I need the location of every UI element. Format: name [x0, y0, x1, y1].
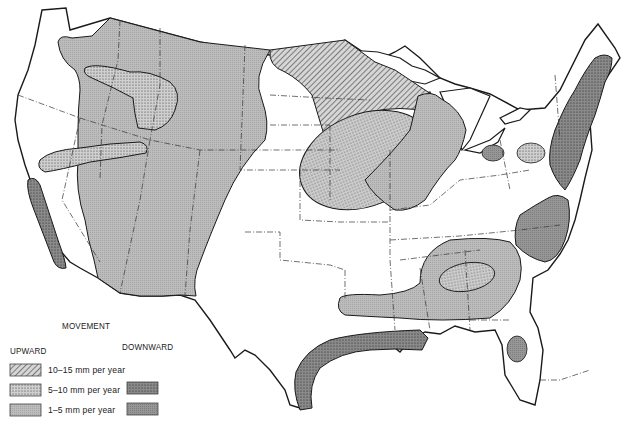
movement-map — [0, 0, 628, 425]
legend-downward-label: DOWNWARD — [122, 341, 173, 352]
legend-upward-label: UPWARD — [10, 345, 47, 356]
legend-row-5-10: 5–10 mm per year — [48, 384, 120, 395]
legend-swatch-down-1-5 — [127, 403, 158, 415]
legend-row-10-15: 10–15 mm per year — [48, 364, 125, 375]
legend-swatch-up-10-15 — [10, 364, 41, 376]
legend-title: MOVEMENT — [62, 320, 110, 331]
legend-swatch-up-1-5 — [10, 404, 41, 416]
region-upward-5-10-pennsylvania — [517, 143, 545, 163]
legend-swatch-down-5-10 — [127, 382, 158, 394]
legend-row-1-5: 1–5 mm per year — [48, 404, 115, 415]
legend-swatch-up-5-10 — [10, 384, 41, 396]
region-downward-1-5-florida — [507, 336, 527, 362]
region-downward-1-5-ohio — [482, 145, 504, 161]
